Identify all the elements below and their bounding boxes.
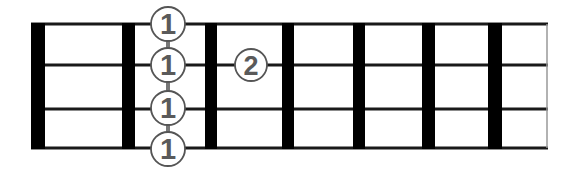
frets [31, 23, 502, 149]
finger-number: 1 [160, 133, 176, 165]
finger-number: 1 [160, 49, 176, 81]
nut [31, 23, 45, 149]
finger-number: 1 [160, 8, 176, 40]
fret-4 [353, 23, 365, 149]
finger-marker: 1 [151, 132, 185, 166]
fret-6 [488, 23, 502, 149]
finger-marker: 1 [151, 7, 185, 41]
finger-number: 2 [243, 51, 258, 81]
finger-marker: 2 [235, 49, 267, 81]
finger-marker: 1 [151, 91, 185, 125]
fret-3 [282, 23, 294, 149]
finger-number: 1 [160, 92, 176, 124]
fret-5 [422, 23, 435, 149]
fretboard-diagram: 1 1 1 1 2 [0, 0, 572, 173]
fret-2 [205, 23, 217, 149]
finger-marker: 1 [151, 48, 185, 82]
fret-1 [122, 23, 135, 149]
